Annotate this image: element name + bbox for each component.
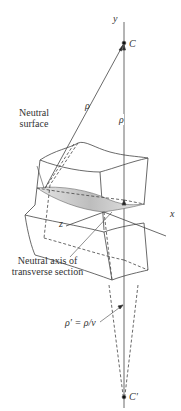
beam-top-back-edge bbox=[40, 142, 148, 160]
neutral-surface-line1: Neutral bbox=[12, 107, 56, 118]
point-c-label: C bbox=[129, 38, 136, 49]
point-c-prime-label: C′ bbox=[129, 391, 138, 402]
neutral-axis-line2: transverse section bbox=[5, 266, 90, 277]
beam-bending-diagram bbox=[0, 0, 181, 411]
y-axis-label: y bbox=[113, 13, 117, 24]
point-c-prime bbox=[122, 395, 126, 399]
neutral-axis-line1: Neutral axis of bbox=[5, 255, 90, 266]
x-axis-line bbox=[104, 212, 166, 236]
x-axis-label: x bbox=[170, 208, 174, 219]
z-axis-line bbox=[66, 212, 104, 226]
z-axis-label: z bbox=[59, 218, 63, 229]
neutral-surface-line2: surface bbox=[12, 118, 56, 129]
rho-left-label: ρ bbox=[85, 100, 90, 111]
rho-prime-label: ρ′ = ρ/ν bbox=[65, 317, 96, 328]
neutral-surface-label: Neutral surface bbox=[12, 107, 56, 129]
rho-right-label: ρ bbox=[119, 114, 124, 125]
neutral-axis-label: Neutral axis of transverse section bbox=[5, 255, 90, 277]
